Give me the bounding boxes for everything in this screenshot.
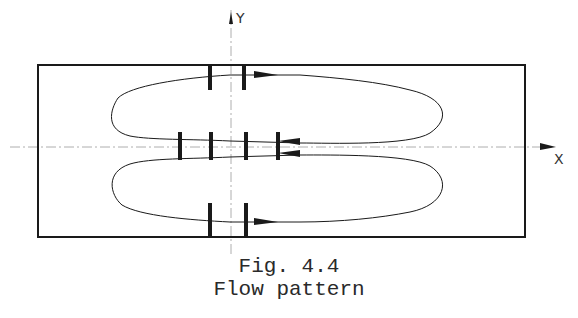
figure-title: Flow pattern — [0, 279, 578, 300]
barrier-mid-1 — [178, 132, 182, 160]
channel-frame — [38, 65, 525, 237]
barrier-top-2 — [242, 65, 246, 90]
barrier-mid-4 — [276, 132, 280, 160]
lower-flow-arrow-icon — [254, 218, 278, 225]
x-axis-arrow-icon — [540, 143, 556, 150]
lower-flow-loop — [112, 155, 442, 222]
y-axis-arrow-icon — [229, 12, 233, 24]
y-axis-label: Y — [235, 10, 245, 26]
x-axis-label: X — [554, 151, 564, 167]
upper-flow-arrow-icon — [254, 71, 278, 78]
figure-number: Fig. 4.4 — [0, 256, 578, 277]
barrier-top-1 — [208, 65, 212, 90]
barrier-mid-3 — [244, 132, 248, 160]
barrier-bottom-1 — [208, 203, 212, 237]
barrier-bottom-2 — [244, 203, 248, 237]
middle-upper-arrow-icon — [278, 138, 300, 145]
barrier-mid-2 — [209, 132, 213, 160]
